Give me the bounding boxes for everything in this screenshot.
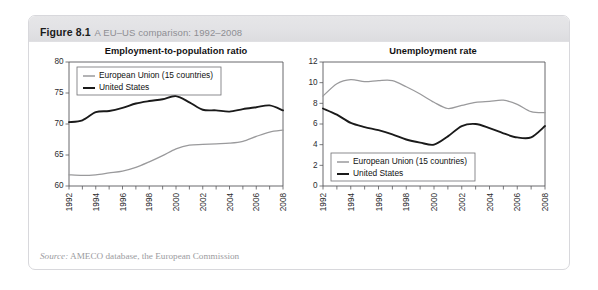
- x-tick-label: 1994: [92, 193, 101, 212]
- legend-label-us: United States: [99, 82, 149, 92]
- x-tick-label: 2008: [279, 193, 288, 212]
- legend-label-us: United States: [353, 168, 403, 178]
- series-line-us: [69, 96, 283, 122]
- y-tick-label: 6: [313, 119, 318, 128]
- series-line-eu: [69, 130, 283, 175]
- source-label: Source:: [40, 251, 68, 261]
- y-tick-label: 2: [313, 161, 318, 170]
- y-tick-label: 8: [313, 99, 318, 108]
- x-tick-label: 2008: [541, 193, 550, 212]
- x-tick-label: 2004: [226, 193, 235, 212]
- x-tick-label: 2000: [172, 193, 181, 212]
- x-tick-label: 2000: [430, 193, 439, 212]
- y-tick-label: 75: [54, 88, 64, 97]
- chart-legend: European Union (15 countries)United Stat…: [77, 67, 221, 95]
- chart-panel-unemployment: Unemployment rate 0246810121992199419961…: [301, 46, 553, 246]
- chart-plot-employment: 6065707580199219941996199820002002200420…: [39, 58, 291, 243]
- x-tick-label: 2002: [199, 193, 208, 212]
- y-tick-label: 70: [54, 119, 64, 128]
- source-note: Source: AMECO database, the European Com…: [40, 251, 239, 261]
- x-tick-label: 1994: [347, 193, 356, 212]
- figure-number: Figure 8.1: [40, 26, 91, 38]
- x-tick-label: 2006: [513, 193, 522, 212]
- legend-label-eu: European Union (15 countries): [99, 70, 213, 80]
- chart-title-employment: Employment-to-population ratio: [39, 46, 291, 56]
- source-text: AMECO database, the European Commission: [68, 251, 239, 261]
- figure-title: A EU–US comparison: 1992–2008: [95, 27, 243, 38]
- chart-legend: European Union (15 countries)United Stat…: [331, 153, 475, 181]
- x-tick-label: 2002: [458, 193, 467, 212]
- chart-title-unemployment: Unemployment rate: [301, 46, 553, 56]
- chart-plot-unemployment: 0246810121992199419961998200020022004200…: [301, 58, 553, 243]
- legend-label-eu: European Union (15 countries): [353, 156, 467, 166]
- y-tick-label: 65: [54, 150, 64, 159]
- y-tick-label: 0: [313, 181, 318, 190]
- series-line-us: [323, 109, 545, 145]
- x-tick-label: 1996: [375, 193, 384, 212]
- y-tick-label: 10: [308, 78, 318, 87]
- chart-panel-employment: Employment-to-population ratio 606570758…: [39, 46, 291, 246]
- series-line-eu: [323, 80, 545, 113]
- x-tick-label: 1998: [145, 193, 154, 212]
- y-tick-label: 80: [54, 58, 64, 66]
- x-tick-label: 1992: [65, 193, 74, 212]
- figure-caption: Figure 8.1A EU–US comparison: 1992–2008: [40, 22, 242, 40]
- figure-container: Figure 8.1A EU–US comparison: 1992–2008 …: [28, 15, 570, 270]
- y-tick-label: 60: [54, 181, 64, 190]
- x-tick-label: 1998: [402, 193, 411, 212]
- x-tick-label: 2006: [252, 193, 261, 212]
- x-tick-label: 1996: [119, 193, 128, 212]
- figure-header: Figure 8.1A EU–US comparison: 1992–2008: [29, 16, 569, 42]
- x-tick-label: 2004: [486, 193, 495, 212]
- y-tick-label: 4: [313, 140, 318, 149]
- y-tick-label: 12: [308, 58, 318, 66]
- x-tick-label: 1992: [319, 193, 328, 212]
